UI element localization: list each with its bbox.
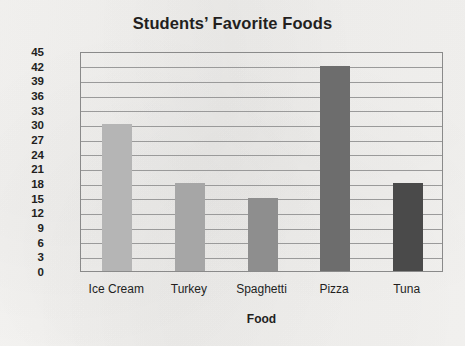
- y-tick-label: 0: [4, 266, 44, 278]
- gridline: [81, 170, 442, 171]
- gridline: [81, 141, 442, 142]
- gridline: [81, 97, 442, 98]
- y-tick-label: 3: [4, 251, 44, 263]
- y-tick-label: 30: [4, 119, 44, 131]
- y-tick-label: 6: [4, 237, 44, 249]
- gridline: [81, 67, 442, 68]
- y-tick-label: 12: [4, 207, 44, 219]
- y-tick-label: 21: [4, 163, 44, 175]
- x-tick-label: Pizza: [319, 282, 348, 296]
- x-tick-label: Spaghetti: [236, 282, 287, 296]
- y-tick-label: 15: [4, 193, 44, 205]
- y-tick-label: 9: [4, 222, 44, 234]
- y-tick-label: 36: [4, 90, 44, 102]
- bar: [102, 124, 132, 271]
- bar: [393, 183, 423, 271]
- bar: [320, 66, 350, 271]
- bar-chart: Students’ Favorite Foods Number of Stude…: [0, 0, 465, 346]
- x-tick-label: Ice Cream: [89, 282, 144, 296]
- y-tick-label: 18: [4, 178, 44, 190]
- chart-title: Students’ Favorite Foods: [0, 14, 465, 33]
- x-tick-label: Turkey: [171, 282, 207, 296]
- x-axis-title: Food: [80, 312, 443, 326]
- gridline: [81, 185, 442, 186]
- gridline: [81, 126, 442, 127]
- y-tick-label: 45: [4, 46, 44, 58]
- bar: [175, 183, 205, 271]
- y-tick-label: 24: [4, 149, 44, 161]
- bar: [248, 198, 278, 271]
- plot-area: [80, 52, 443, 272]
- y-tick-label: 39: [4, 75, 44, 87]
- y-tick-label: 27: [4, 134, 44, 146]
- x-axis-ticks: Ice CreamTurkeySpaghettiPizzaTuna: [80, 282, 443, 302]
- gridline: [81, 111, 442, 112]
- gridline: [81, 155, 442, 156]
- gridline: [81, 82, 442, 83]
- y-tick-label: 42: [4, 61, 44, 73]
- y-tick-label: 33: [4, 105, 44, 117]
- x-tick-label: Tuna: [393, 282, 420, 296]
